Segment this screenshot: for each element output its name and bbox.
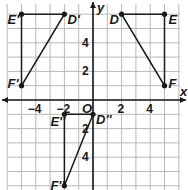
y-tick-label: 2: [82, 122, 89, 136]
vertex-point: [62, 12, 67, 17]
y-tick-label: 4: [82, 150, 89, 164]
x-axis-left-arrow-icon: [2, 97, 8, 103]
vertex-point: [19, 83, 24, 88]
x-tick-label: −4: [28, 102, 42, 116]
y-axis-up-arrow-icon: [90, 2, 96, 8]
coordinate-plane: yxO−4−2244224DEFD'E'F'D''E''F'': [0, 0, 188, 190]
vertex-label: E': [8, 12, 21, 27]
y-tick-label: 2: [82, 64, 89, 78]
vertex-point: [119, 12, 124, 17]
triangle-dpepfp: [22, 14, 65, 86]
vertex-point: [162, 83, 167, 88]
vertex-label: E: [169, 12, 178, 27]
y-tick-label: 4: [82, 36, 89, 50]
vertex-point: [162, 12, 167, 17]
y-axis-label: y: [96, 0, 105, 15]
x-axis-label: x: [179, 84, 188, 99]
x-tick-label: 2: [118, 102, 125, 116]
x-tick-label: 4: [146, 102, 153, 116]
vertex-label: F': [8, 76, 20, 91]
vertex-label: D': [67, 12, 80, 27]
vertex-label: D'': [96, 112, 112, 127]
vertex-point: [19, 12, 24, 17]
vertex-label: F'': [50, 178, 65, 190]
origin-label: O: [82, 101, 92, 116]
vertex-label: F: [169, 76, 178, 91]
axes: [2, 2, 186, 190]
vertex-label: D: [110, 12, 120, 27]
triangle-def: [122, 14, 165, 86]
vertex-label: E'': [50, 114, 66, 129]
